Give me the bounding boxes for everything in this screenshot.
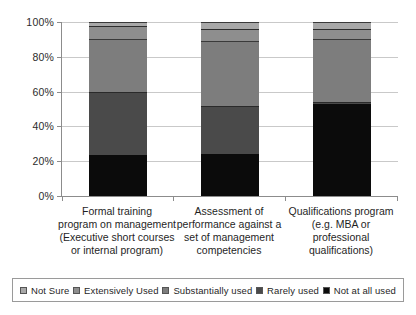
y-axis-tick-label: 60% bbox=[32, 86, 54, 98]
y-axis-tick-label: 0% bbox=[38, 190, 54, 202]
legend-swatch-icon bbox=[323, 287, 330, 294]
bar-stack bbox=[89, 22, 147, 196]
bars-layer bbox=[62, 22, 398, 196]
bar-group bbox=[89, 22, 147, 196]
bar-group bbox=[201, 22, 259, 196]
legend-item[interactable]: Not at all used bbox=[323, 285, 396, 296]
bar-segment bbox=[201, 22, 259, 29]
x-axis-category-labels: Formal trainingprogram on management(Exe… bbox=[61, 205, 397, 267]
legend-swatch-icon bbox=[256, 287, 263, 294]
bar-segment bbox=[313, 104, 371, 196]
plot-area: 0%20%40%60%80%100% bbox=[61, 22, 398, 197]
x-axis-category-label: Assessment ofperformance against aset of… bbox=[167, 205, 291, 257]
bar-stack bbox=[313, 22, 371, 196]
bar-segment bbox=[313, 29, 371, 39]
bar-segment bbox=[313, 102, 371, 104]
x-axis-tick bbox=[397, 196, 398, 201]
y-axis-tick-label: 80% bbox=[32, 51, 54, 63]
bar-segment bbox=[201, 29, 259, 41]
x-axis-label-line: (Executive short courses bbox=[55, 231, 179, 244]
bar-segment bbox=[89, 22, 147, 26]
bar-segment bbox=[89, 155, 147, 196]
x-axis-label-line: Assessment of bbox=[167, 205, 291, 218]
legend-label: Not at all used bbox=[334, 285, 396, 296]
x-axis-label-line: program on management bbox=[55, 218, 179, 231]
x-axis-label-line: professional bbox=[279, 231, 403, 244]
bar-segment bbox=[201, 41, 259, 105]
y-axis-tick-label: 100% bbox=[26, 16, 54, 28]
chart-legend: Not SureExtensively UsedSubstantially us… bbox=[12, 278, 404, 302]
bar-stack bbox=[201, 22, 259, 196]
legend-label: Not Sure bbox=[31, 285, 69, 296]
legend-item[interactable]: Substantially used bbox=[162, 285, 252, 296]
x-axis-label-line: (e.g. MBA or bbox=[279, 218, 403, 231]
x-axis-tick bbox=[285, 196, 286, 201]
legend-item[interactable]: Rarely used bbox=[256, 285, 319, 296]
legend-item[interactable]: Not Sure bbox=[20, 285, 69, 296]
x-axis-tick bbox=[62, 196, 63, 201]
legend-label: Extensively Used bbox=[84, 285, 158, 296]
stacked-bar-chart: 0%20%40%60%80%100% Formal trainingprogra… bbox=[0, 0, 416, 315]
x-axis-label-line: set of management bbox=[167, 231, 291, 244]
legend-label: Substantially used bbox=[173, 285, 252, 296]
x-axis-label-line: Qualifications program bbox=[279, 205, 403, 218]
bar-segment bbox=[313, 39, 371, 102]
legend-swatch-icon bbox=[20, 287, 27, 294]
legend-label: Rarely used bbox=[267, 285, 319, 296]
bar-segment bbox=[89, 26, 147, 39]
legend-item[interactable]: Extensively Used bbox=[73, 285, 158, 296]
bar-group bbox=[313, 22, 371, 196]
y-axis-tick-label: 40% bbox=[32, 120, 54, 132]
bar-segment bbox=[201, 154, 259, 196]
bar-segment bbox=[201, 106, 259, 155]
x-axis-tick bbox=[173, 196, 174, 201]
x-axis-label-line: Formal training bbox=[55, 205, 179, 218]
bar-segment bbox=[313, 22, 371, 29]
x-axis-label-line: competencies bbox=[167, 244, 291, 257]
y-axis-tick-label: 20% bbox=[32, 155, 54, 167]
bar-segment bbox=[89, 39, 147, 91]
x-axis-label-line: performance against a bbox=[167, 218, 291, 231]
x-axis-category-label: Formal trainingprogram on management(Exe… bbox=[55, 205, 179, 257]
bar-segment bbox=[89, 92, 147, 156]
legend-swatch-icon bbox=[73, 287, 80, 294]
x-axis-label-line: qualifications) bbox=[279, 244, 403, 257]
x-axis-label-line: or internal program) bbox=[55, 244, 179, 257]
x-axis-category-label: Qualifications program(e.g. MBA orprofes… bbox=[279, 205, 403, 257]
legend-swatch-icon bbox=[162, 287, 169, 294]
